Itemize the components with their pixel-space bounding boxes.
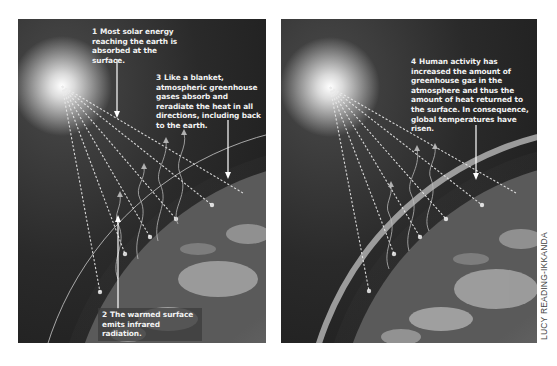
label-step-4: 4Human activity has increased the amount… <box>411 57 535 134</box>
step-text: Most solar energy reaching the earth is … <box>92 27 177 65</box>
label-step-1: 1Most solar energy reaching the earth is… <box>92 27 192 65</box>
step-text: The warmed surface emits infrared radiat… <box>102 310 193 338</box>
diagram-panel-natural: 1Most solar energy reaching the earth is… <box>18 19 266 343</box>
diagram-panel-enhanced: 4Human activity has increased the amount… <box>281 19 537 343</box>
label-step-3: 3Like a blanket, atmospheric greenhouse … <box>156 73 266 131</box>
step-number: 4 <box>411 57 416 66</box>
natural-greenhouse-illustration <box>18 19 266 343</box>
step-text: Like a blanket, atmospheric greenhouse g… <box>156 73 261 130</box>
step-text: Human activity has increased the amount … <box>411 57 529 133</box>
step-number: 3 <box>156 73 161 82</box>
label-step-2: 2The warmed surface emits infrared radia… <box>98 308 202 341</box>
illustration-credit: LUCY READING-IKKANDA <box>539 232 549 340</box>
step-number: 2 <box>102 310 107 319</box>
step-number: 1 <box>92 27 97 36</box>
